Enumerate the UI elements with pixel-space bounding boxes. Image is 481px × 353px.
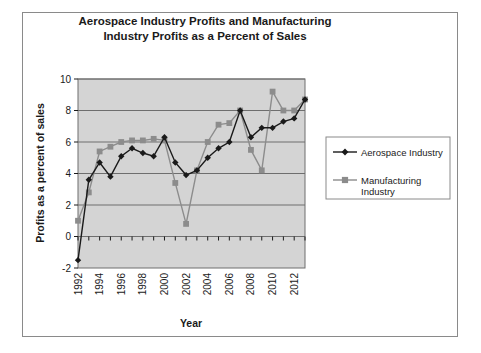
data-point [140, 138, 146, 144]
x-tick-label: 2002 [181, 273, 192, 296]
data-point [270, 89, 276, 95]
x-tick-label: 2012 [289, 273, 300, 296]
x-tick-label: 2008 [245, 273, 256, 296]
x-tick-label: 1996 [116, 273, 127, 296]
data-point [280, 108, 286, 114]
data-point [291, 108, 297, 114]
x-tick-label: 2006 [224, 273, 235, 296]
y-tick-label: 8 [65, 105, 71, 116]
data-point [108, 144, 114, 150]
legend-marker-square-icon [342, 177, 348, 183]
data-point [118, 139, 124, 145]
y-axis-ticks [74, 79, 78, 268]
data-point [172, 180, 178, 186]
legend-label[interactable]: Industry [361, 186, 395, 197]
data-point [75, 218, 81, 224]
y-axis-title: Profits as a percent of sales [34, 103, 46, 243]
x-axis-title: Year [180, 317, 202, 329]
x-tick-label: 1992 [73, 273, 84, 296]
chart-page: Aerospace Industry Profits and Manufactu… [0, 0, 481, 353]
y-tick-label: 10 [60, 74, 72, 85]
x-tick-label: 2010 [267, 273, 278, 296]
data-point [183, 221, 189, 227]
legend-label[interactable]: Manufacturing [361, 175, 421, 186]
y-tick-label: 4 [65, 168, 71, 179]
data-point [97, 149, 103, 155]
data-point [216, 122, 222, 128]
y-tick-label: 6 [65, 137, 71, 148]
x-tick-label: 1994 [94, 273, 105, 296]
x-tick-label: 1998 [137, 273, 148, 296]
data-point [248, 147, 254, 153]
x-tick-label: 2000 [159, 273, 170, 296]
data-point [226, 120, 232, 126]
data-point [259, 167, 265, 173]
chart-canvas: 1086420-2 199219941996199820002002200420… [0, 0, 481, 353]
y-tick-label: -2 [62, 263, 71, 274]
y-tick-label: 0 [65, 231, 71, 242]
data-point [205, 139, 211, 145]
x-tick-label: 2004 [202, 273, 213, 296]
data-point [129, 138, 135, 144]
y-tick-label: 2 [65, 200, 71, 211]
data-point [151, 136, 157, 142]
y-axis-tick-labels: 1086420-2 [60, 74, 72, 274]
legend-label[interactable]: Aerospace Industry [361, 147, 443, 158]
x-axis-tick-labels: 1992199419961998200020022004200620082010… [73, 273, 300, 296]
